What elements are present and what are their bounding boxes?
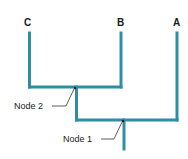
node1-dot xyxy=(122,120,124,122)
taxon-label-c: C xyxy=(24,18,31,28)
node1-label: Node 1 xyxy=(63,135,92,144)
node2-dot xyxy=(74,87,76,89)
node2-label: Node 2 xyxy=(14,102,43,111)
node1-leader-line xyxy=(101,122,122,139)
node2-leader-line xyxy=(52,89,74,106)
taxon-label-a: A xyxy=(173,18,180,28)
taxon-label-b: B xyxy=(117,18,124,28)
